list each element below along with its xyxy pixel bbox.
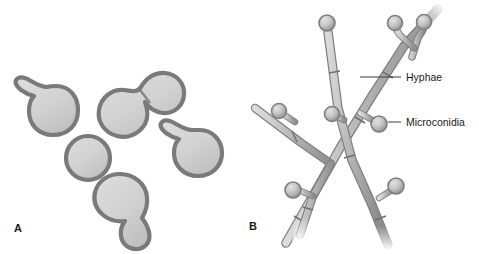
microconidia-label: Microconidia [406, 116, 465, 128]
microconidium-top-right-b [417, 15, 432, 30]
microconidium-lower-right [388, 178, 404, 194]
microconidium-lower-left [285, 182, 301, 198]
microconidium-center [325, 107, 340, 122]
panel-letter-a: A [14, 222, 22, 234]
hyphae-label: Hyphae [406, 71, 442, 83]
microconidium-top-main [319, 15, 335, 31]
figure-container: A [0, 0, 479, 254]
microconidium-left-branch [272, 104, 287, 119]
figure-svg: A [0, 0, 479, 254]
microconidium-top-right-a [388, 16, 403, 31]
round-cell-center [66, 136, 110, 180]
panel-letter-b: B [249, 220, 257, 232]
microconidium-labeled [371, 116, 387, 132]
